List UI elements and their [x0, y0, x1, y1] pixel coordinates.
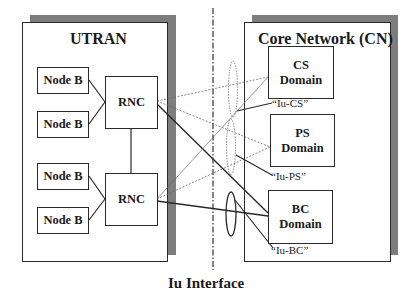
- iu-ps-bundle: [227, 119, 236, 175]
- iu-bc-label: “Iu-BC”: [271, 244, 308, 256]
- rnc-lower: RNC: [105, 173, 158, 226]
- iu-cs-bundle: [229, 61, 238, 117]
- node-b-4: Node B: [37, 207, 89, 234]
- iu-bc-bundle: [226, 192, 236, 236]
- ps-domain-line2: Domain: [281, 141, 323, 156]
- cs-domain-line2: Domain: [280, 73, 322, 88]
- node-b-1: Node B: [37, 67, 89, 94]
- iu-interface-caption: Iu Interface: [168, 275, 244, 292]
- bc-domain-line2: Domain: [279, 217, 321, 232]
- iu-cs-label: “Iu-CS”: [272, 97, 308, 109]
- connection-lines: [0, 0, 415, 298]
- iu-ps-label: “Iu-PS”: [271, 170, 306, 182]
- ps-domain: PS Domain: [270, 114, 335, 167]
- bc-domain-line1: BC: [292, 202, 309, 217]
- cs-domain: CS Domain: [268, 46, 334, 99]
- rnc-upper: RNC: [105, 76, 158, 129]
- ps-domain-line1: PS: [295, 126, 310, 141]
- cs-domain-line1: CS: [293, 58, 309, 73]
- node-b-3: Node B: [37, 163, 89, 190]
- bc-domain: BC Domain: [268, 190, 333, 244]
- node-b-2: Node B: [37, 111, 89, 138]
